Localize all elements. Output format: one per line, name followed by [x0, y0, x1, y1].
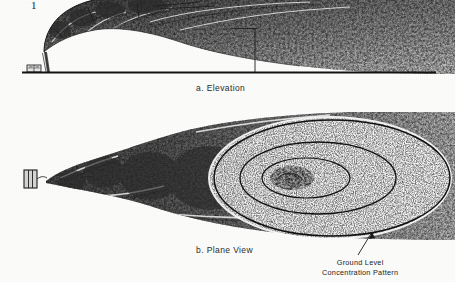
elevation-view	[0, 0, 455, 80]
figure-number-label: 1	[31, 0, 37, 11]
smokestack-icon	[43, 52, 51, 72]
annotation-line-1: Ground Level	[322, 258, 398, 268]
concentration-core	[270, 166, 314, 190]
caption-elevation: a. Elevation	[196, 83, 245, 93]
emission-source-icon	[24, 170, 47, 188]
caption-plane-view: b. Plane View	[196, 245, 253, 255]
annotation-ground-level: Ground Level Concentration Pattern	[322, 258, 398, 278]
figure-artwork	[0, 0, 455, 282]
concentration-stipple-field	[208, 116, 452, 240]
annotation-line-2: Concentration Pattern	[322, 268, 398, 278]
elevation-plume	[0, 0, 455, 80]
plume-dispersion-figure: 1 a. Elevation b. Plane View Ground Leve…	[0, 0, 455, 282]
building-icon	[27, 65, 41, 72]
plane-view	[0, 105, 455, 255]
